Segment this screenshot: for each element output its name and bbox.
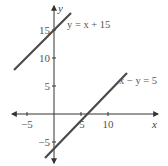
x-axis-label: x: [151, 118, 157, 130]
x-tick-label-10: 10: [103, 118, 115, 130]
y-tick-label-5: 5: [45, 80, 51, 92]
x-tick-label-neg5: −5: [21, 118, 33, 130]
y-tick-label-neg5: −5: [38, 136, 50, 148]
y-axis-label: y: [57, 2, 63, 14]
y-tick-label-10: 10: [39, 52, 51, 64]
equation-label-lower: x − y = 5: [119, 75, 157, 86]
equation-label-upper: y = x + 15: [67, 19, 110, 30]
line-x-minus-y-equals-5: [45, 73, 127, 158]
graph-canvas: −5 5 10 15 10 5 −5 x y y = x + 15 x − y …: [0, 0, 168, 166]
